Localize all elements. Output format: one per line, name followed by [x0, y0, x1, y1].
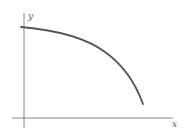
x-axis-label: x — [172, 119, 177, 129]
y-axis-label: y — [27, 11, 34, 21]
plot-canvas: y x — [0, 0, 184, 136]
function-curve — [21, 27, 143, 104]
